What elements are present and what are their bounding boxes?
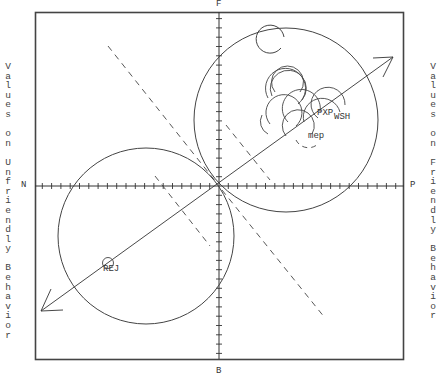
diagram-canvas: REJ PXP WSH mep bbox=[0, 0, 441, 382]
dashed-line-upper-center bbox=[226, 125, 270, 180]
arrowhead-upper-right bbox=[373, 57, 393, 77]
arrowhead-lower-left bbox=[41, 289, 63, 311]
dashed-line-upper-left bbox=[108, 46, 216, 182]
label-rej: REJ bbox=[103, 264, 119, 274]
label-pxp: PXP bbox=[317, 108, 333, 118]
label-mep: mep bbox=[308, 131, 324, 141]
label-wsh: WSH bbox=[334, 112, 350, 122]
unfriendly-circle bbox=[58, 148, 234, 324]
circle-cluster bbox=[260, 66, 345, 148]
